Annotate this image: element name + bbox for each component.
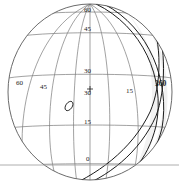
latitude-label-60: 60 (84, 7, 91, 14)
latitude-label-45: 45 (84, 26, 91, 33)
latitude-label-15: 15 (84, 119, 91, 126)
longitude-label-60: 60 (16, 80, 23, 87)
highlight-meridian-curves (60, 4, 164, 190)
latitude-label-0: 0 (86, 156, 90, 163)
latitude-label-30: 30 (84, 68, 91, 75)
shaded-lune-region (120, 4, 167, 188)
longitude-label-360: 360 (155, 80, 166, 88)
ellipse-region-marker (63, 100, 74, 112)
longitude-grid-lines (22, 4, 138, 188)
sphere-diagram-figure: 60 45 30 15 0 60 45 15 360 30 (0, 0, 179, 191)
longitude-label-15: 15 (126, 88, 133, 95)
marker-value-label: 30 (84, 90, 91, 97)
longitude-label-45: 45 (40, 84, 47, 91)
